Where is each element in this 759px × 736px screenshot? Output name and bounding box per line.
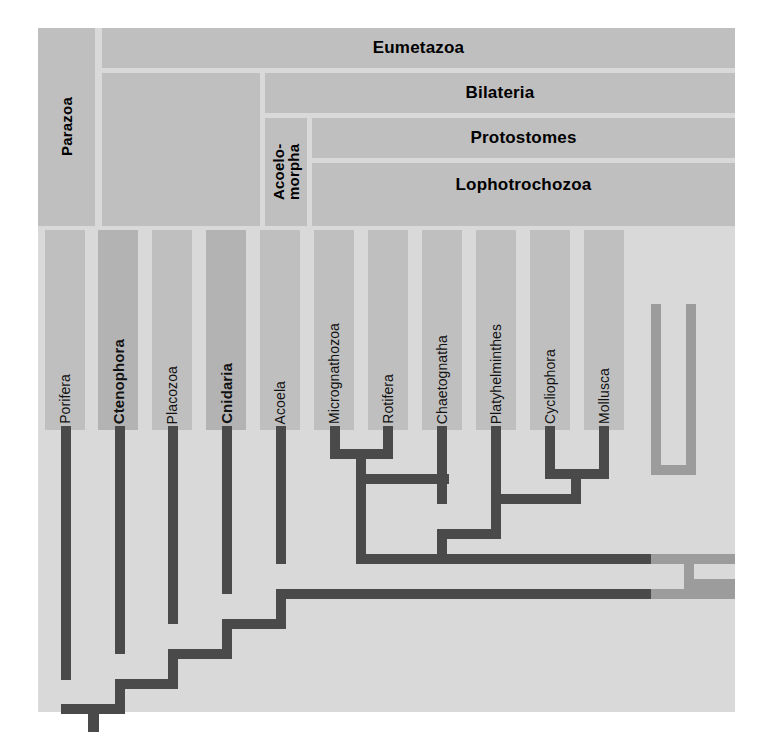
node-stem-lophotrochozoa-core — [356, 474, 366, 559]
taxon-column-chaetognatha[interactable]: Chaetognatha — [422, 230, 462, 430]
branch-stem-porifera — [61, 426, 71, 680]
taxon-column-cycliophora[interactable]: Cycliophora — [530, 230, 570, 430]
node-bar-bilateria — [276, 589, 656, 599]
clade-bar-parazoa: Parazoa — [38, 28, 95, 226]
node-bar-platyhelminthes-group — [491, 494, 581, 504]
node-stem-cnidaria-group — [222, 619, 232, 649]
clade-label-eumetazoa: Eumetazoa — [373, 38, 465, 58]
clade-label-acoelomorpha: Acoelo- morpha — [271, 144, 302, 200]
taxon-label-ctenophora: Ctenophora — [110, 339, 127, 424]
clade-bar-lophotrochozoa: Lophotrochozoa — [312, 163, 735, 226]
clade-bar-eumetazoa: Eumetazoa — [102, 28, 735, 68]
taxon-column-mollusca[interactable]: Mollusca — [584, 230, 624, 430]
taxon-label-cycliophora: Cycliophora — [542, 349, 558, 424]
taxon-column-micrognathozoa[interactable]: Micrognathozoa — [314, 230, 354, 430]
taxon-label-cnidaria: Cnidaria — [218, 363, 235, 424]
taxon-label-platyhelminthes: Platyhelminthes — [488, 324, 504, 424]
diagram-panel: Parazoa Eumetazoa Bilateria Acoelo- morp… — [38, 28, 735, 712]
branch-stem-cnidaria — [222, 426, 232, 594]
branch-stem-cycliophora — [545, 426, 555, 474]
clade-bar-bilateria: Bilateria — [265, 73, 735, 113]
taxon-column-acoela[interactable]: Acoela — [260, 230, 300, 430]
node-stem-platyhelminthes-group — [491, 494, 501, 534]
node-bar-protostome-spine — [356, 554, 656, 564]
clade-bar-eumetazoa-body — [102, 73, 260, 226]
taxon-column-platyhelminthes[interactable]: Platyhelminthes — [476, 230, 516, 430]
node-bar-bilateria-light — [651, 589, 735, 599]
branch-stem-ctenophora — [115, 426, 125, 654]
branch-stem-chaetognatha — [437, 426, 447, 504]
root-stem-metazoa — [88, 704, 99, 732]
taxon-column-placozoa[interactable]: Placozoa — [152, 230, 192, 430]
taxon-label-porifera: Porifera — [57, 374, 73, 424]
branch-stem-placozoa — [168, 426, 178, 624]
taxon-column-ctenophora[interactable]: Ctenophora — [98, 230, 138, 430]
branch-stem-acoela — [276, 426, 286, 564]
taxon-column-porifera[interactable]: Porifera — [45, 230, 85, 430]
clade-label-parazoa: Parazoa — [59, 98, 74, 157]
branch-stem-unlabeled-1 — [651, 304, 661, 474]
taxon-label-micrognathozoa: Micrognathozoa — [326, 323, 342, 424]
clade-bar-protostomes: Protostomes — [312, 118, 735, 158]
node-stem-placozoa-group — [168, 649, 178, 679]
taxon-label-mollusca: Mollusca — [596, 368, 612, 424]
taxon-label-acoela: Acoela — [272, 381, 288, 424]
taxon-label-placozoa: Placozoa — [164, 366, 180, 424]
clade-label-bilateria: Bilateria — [466, 83, 535, 103]
clade-bar-acoelomorpha: Acoelo- morpha — [265, 118, 307, 226]
node-bar-lophotrochozoa-core — [356, 474, 449, 484]
taxon-label-chaetognatha: Chaetognatha — [434, 335, 450, 424]
taxon-label-rotifera: Rotifera — [380, 374, 396, 424]
clade-label-protostomes: Protostomes — [470, 128, 576, 148]
node-bar-protostome-off-figure — [684, 579, 735, 589]
figure-canvas: Parazoa Eumetazoa Bilateria Acoelo- morp… — [0, 0, 759, 736]
branch-stem-mollusca — [599, 426, 609, 474]
node-bar-unlabeled-pair — [651, 465, 696, 475]
taxon-column-cnidaria[interactable]: Cnidaria — [206, 230, 246, 430]
taxon-column-rotifera[interactable]: Rotifera — [368, 230, 408, 430]
branch-stem-unlabeled-2 — [686, 304, 696, 474]
clade-label-lophotrochozoa: Lophotrochozoa — [456, 175, 592, 195]
